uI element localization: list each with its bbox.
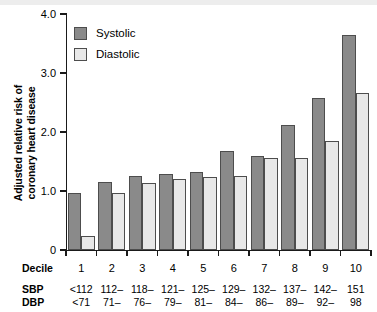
legend-item-diastolic: Diastolic — [74, 45, 139, 63]
annotation-cell-dbp-5: 81– — [194, 296, 212, 308]
annotation-cell-sbp-8: 137– — [283, 283, 306, 295]
annotation-row-label-dbp: DBP — [22, 296, 44, 308]
annotation-cell-sbp-2: 112– — [100, 283, 123, 295]
annotation-cell-decile-9: 9 — [322, 262, 328, 274]
y-axis-tick-label: 2.0 — [22, 127, 56, 138]
bar-diastolic-decile-6 — [234, 176, 248, 250]
annotation-cell-dbp-6: 84– — [225, 296, 243, 308]
x-axis-tick — [309, 250, 310, 256]
bar-diastolic-decile-2 — [112, 193, 126, 250]
bar-systolic-decile-6 — [220, 151, 234, 250]
bar-systolic-decile-10 — [342, 35, 356, 250]
legend-swatch-diastolic-icon — [74, 48, 87, 61]
y-axis-tick-label: 1.0 — [22, 186, 56, 197]
legend-label-diastolic: Diastolic — [96, 48, 139, 60]
annotation-cell-decile-6: 6 — [231, 262, 237, 274]
annotation-cell-dbp-9: 92– — [316, 296, 334, 308]
bar-systolic-decile-9 — [312, 98, 326, 250]
annotation-cell-sbp-10: 151 — [347, 283, 365, 295]
annotation-row-label-sbp: SBP — [22, 283, 44, 295]
bar-diastolic-decile-1 — [81, 236, 95, 250]
bar-diastolic-decile-5 — [203, 177, 217, 250]
legend-item-systolic: Systolic — [74, 24, 139, 42]
annotation-cell-decile-10: 10 — [350, 262, 362, 274]
x-axis-tick — [65, 250, 66, 256]
x-axis-tick — [126, 250, 127, 256]
chart-legend: Systolic Diastolic — [74, 24, 139, 66]
annotation-cell-decile-4: 4 — [170, 262, 176, 274]
bar-systolic-decile-8 — [281, 125, 295, 250]
x-axis-tick — [370, 250, 371, 256]
y-axis-tick-label: 0 — [22, 245, 56, 256]
annotation-cell-dbp-7: 86– — [255, 296, 273, 308]
bar-diastolic-decile-9 — [325, 141, 339, 250]
bar-systolic-decile-1 — [68, 193, 82, 250]
annotation-cell-dbp-10: 98 — [350, 296, 362, 308]
annotation-cell-dbp-3: 76– — [133, 296, 151, 308]
annotation-cell-decile-2: 2 — [109, 262, 115, 274]
bar-systolic-decile-5 — [190, 172, 204, 250]
x-axis-tick — [157, 250, 158, 256]
annotation-cell-decile-3: 3 — [139, 262, 145, 274]
bar-systolic-decile-7 — [251, 156, 265, 250]
bar-group — [159, 14, 186, 250]
annotation-cell-sbp-5: 125– — [192, 283, 215, 295]
annotation-cell-sbp-9: 142– — [314, 283, 337, 295]
bar-diastolic-decile-4 — [173, 179, 187, 250]
bar-group — [190, 14, 217, 250]
bar-systolic-decile-3 — [129, 176, 143, 250]
x-axis-tick — [96, 250, 97, 256]
bar-group — [251, 14, 278, 250]
bar-diastolic-decile-3 — [142, 183, 156, 250]
bar-systolic-decile-4 — [159, 174, 173, 250]
x-axis-tick — [187, 250, 188, 256]
legend-swatch-systolic-icon — [74, 27, 87, 40]
annotation-cell-sbp-3: 118– — [131, 283, 154, 295]
bar-group — [220, 14, 247, 250]
bar-diastolic-decile-8 — [295, 158, 309, 250]
annotation-cell-sbp-6: 129– — [222, 283, 245, 295]
bar-diastolic-decile-10 — [356, 93, 370, 250]
annotation-cell-sbp-1: <112 — [70, 283, 93, 295]
annotation-cell-decile-8: 8 — [292, 262, 298, 274]
x-axis-tick — [340, 250, 341, 256]
bar-group — [342, 14, 369, 250]
chart-figure: Adjusted relative risk of coronary heart… — [0, 0, 377, 312]
legend-label-systolic: Systolic — [96, 27, 136, 39]
annotation-cell-dbp-8: 89– — [286, 296, 304, 308]
annotation-cell-decile-7: 7 — [261, 262, 267, 274]
annotation-cell-dbp-2: 71– — [103, 296, 121, 308]
bar-diastolic-decile-7 — [264, 158, 278, 250]
annotation-cell-dbp-1: <71 — [72, 296, 90, 308]
y-axis-tick-label: 3.0 — [22, 68, 56, 79]
annotation-cell-sbp-7: 132– — [253, 283, 276, 295]
x-axis-tick — [248, 250, 249, 256]
bar-group — [281, 14, 308, 250]
annotation-cell-dbp-4: 79– — [164, 296, 182, 308]
bar-group — [312, 14, 339, 250]
x-axis-tick — [279, 250, 280, 256]
bar-systolic-decile-2 — [98, 182, 112, 250]
annotation-cell-decile-5: 5 — [200, 262, 206, 274]
annotation-cell-sbp-4: 121– — [161, 283, 184, 295]
x-axis-tick — [218, 250, 219, 256]
y-axis-tick-label: 4.0 — [22, 9, 56, 20]
annotation-row-label-decile: Decile — [22, 262, 53, 274]
annotation-cell-decile-1: 1 — [78, 262, 84, 274]
